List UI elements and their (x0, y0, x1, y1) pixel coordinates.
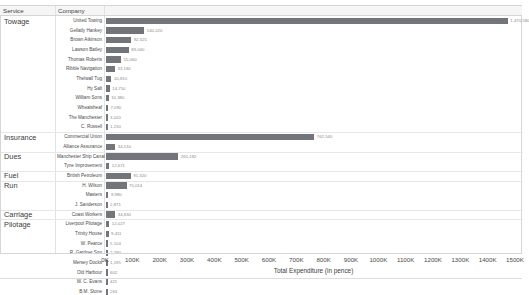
table-row[interactable]: Liverpool Pilotage12,027 (1, 219, 521, 229)
table-row[interactable]: W. Pearce5,104 (1, 239, 521, 249)
table-row[interactable]: United Towing1,470,580 (1, 16, 521, 26)
header-divider-1 (55, 6, 56, 15)
table-row[interactable]: Wheatsheaf7,090 (1, 103, 521, 113)
company-label: British Petroleum (57, 171, 105, 181)
bar[interactable] (106, 85, 110, 91)
bar-value-label: 20,810 (112, 74, 127, 84)
company-label: William Sons (57, 93, 105, 103)
company-cell: Tyne Improvement (57, 161, 105, 171)
x-axis: 0K100K200K300K400K500K600K700K800K900K10… (0, 254, 522, 295)
company-label: C. Russell (57, 122, 105, 132)
table-row[interactable]: C. Russell1,230 (1, 122, 521, 132)
company-label: Brown Atkinson (57, 35, 105, 45)
bar[interactable] (106, 56, 121, 62)
bar-cell: 7,090 (106, 103, 521, 113)
company-cell: The Manchester (57, 113, 105, 123)
bar-cell: 265,182 (106, 152, 521, 162)
bar[interactable] (106, 173, 131, 179)
column-header-service: Service (3, 6, 24, 16)
bar-cell: 92,325 (106, 35, 521, 45)
table-row[interactable]: Tyne Improvement12,671 (1, 161, 521, 171)
bar[interactable] (106, 211, 115, 217)
bar-cell: 55,060 (106, 55, 521, 65)
company-cell: Coast Workers (57, 210, 105, 220)
bar[interactable] (106, 182, 127, 188)
bar-value-label: 10,380 (109, 93, 124, 103)
bar-cell: 9,411 (106, 229, 521, 239)
bar-cell: 14,750 (106, 84, 521, 94)
bar-value-label: 12,671 (110, 161, 125, 171)
bar[interactable] (106, 18, 508, 24)
bar-value-label: 92,325 (132, 35, 147, 45)
bar-cell: 10,380 (106, 93, 521, 103)
company-label: Thelwall Tug (57, 74, 105, 84)
table-row[interactable]: J. Sanderson2,871 (1, 200, 521, 210)
bar-cell: 1,470,580 (106, 16, 521, 26)
bar[interactable] (106, 47, 129, 53)
bar-value-label: 33,180 (116, 64, 131, 74)
company-cell: Lawson Batley (57, 45, 105, 55)
table-row[interactable]: Coast Workers34,830 (1, 210, 521, 220)
company-label: Liverpool Pilotage (57, 219, 105, 229)
bar-value-label: 140,220 (145, 26, 163, 36)
table-header: Service Company (0, 5, 522, 16)
bar-cell: 75,014 (106, 181, 521, 191)
bar[interactable] (106, 66, 115, 72)
bar-cell: 1,230 (106, 122, 521, 132)
company-label: Coast Workers (57, 210, 105, 220)
bar-value-label: 9,980 (109, 190, 122, 200)
bar[interactable] (106, 76, 111, 82)
bar-cell: 3,020 (106, 113, 521, 123)
bar-cell: 2,871 (106, 200, 521, 210)
table-row[interactable]: Thelwall Tug20,810 (1, 74, 521, 84)
company-cell: Brown Atkinson (57, 35, 105, 45)
bar[interactable] (106, 221, 109, 227)
bar-value-label: 5,104 (108, 239, 121, 249)
x-tick-label: 1400K (479, 255, 497, 265)
x-axis-title: Total Expenditure (in pence) (105, 267, 522, 274)
table-row[interactable]: Alliance Assurance34,510 (1, 142, 521, 152)
table-row[interactable]: H. Wilson75,014 (1, 181, 521, 191)
bar[interactable] (106, 27, 144, 33)
table-row[interactable]: The Manchester3,020 (1, 113, 521, 123)
bar-value-label: 55,060 (122, 55, 137, 65)
x-tick-label: 300K (180, 255, 194, 265)
bar[interactable] (106, 153, 178, 159)
company-label: Trinity House (57, 229, 105, 239)
company-label: Ribble Navigation (57, 64, 105, 74)
bar-value-label: 1,470,580 (508, 16, 529, 26)
table-row[interactable]: Commercial Union762,540 (1, 132, 521, 142)
company-cell: Commercial Union (57, 132, 105, 142)
company-label: United Towing (57, 16, 105, 26)
bar-value-label: 12,027 (110, 219, 125, 229)
table-row[interactable]: William Sons10,380 (1, 93, 521, 103)
chart-body: TowageUnited Towing1,470,580Gellatly Han… (0, 16, 522, 254)
company-cell: Liverpool Pilotage (57, 219, 105, 229)
bar[interactable] (106, 163, 109, 169)
column-header-company: Company (58, 6, 84, 16)
table-row[interactable]: Ribble Navigation33,180 (1, 64, 521, 74)
table-row[interactable]: Hy Salt14,750 (1, 84, 521, 94)
bar[interactable] (106, 134, 314, 140)
table-row[interactable]: Gellatly Hankey140,220 (1, 26, 521, 36)
bar-cell: 34,830 (106, 210, 521, 220)
table-row[interactable]: Thomas Roberts55,060 (1, 55, 521, 65)
table-row[interactable]: British Petroleum91,320 (1, 171, 521, 181)
table-row[interactable]: Masters9,980 (1, 190, 521, 200)
company-cell: Masters (57, 190, 105, 200)
bar-value-label: 1,230 (108, 122, 121, 132)
company-cell: Gellatly Hankey (57, 26, 105, 36)
bar-value-label: 9,411 (109, 229, 121, 239)
company-label: Masters (57, 190, 105, 200)
company-label: Thomas Roberts (57, 55, 105, 65)
bar-cell: 140,220 (106, 26, 521, 36)
table-row[interactable]: Manchester Ship Canal265,182 (1, 152, 521, 162)
table-row[interactable]: Lawson Batley83,040 (1, 45, 521, 55)
company-cell: Trinity House (57, 229, 105, 239)
company-cell: Manchester Ship Canal (57, 152, 105, 162)
table-row[interactable]: Brown Atkinson92,325 (1, 35, 521, 45)
bar[interactable] (106, 37, 131, 43)
table-row[interactable]: Trinity House9,411 (1, 229, 521, 239)
bar[interactable] (106, 144, 115, 150)
